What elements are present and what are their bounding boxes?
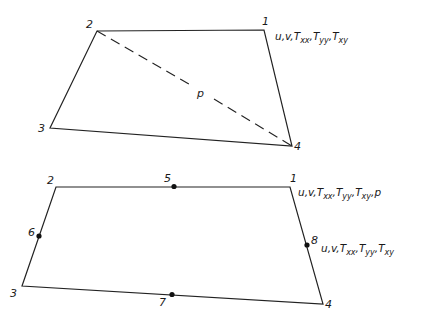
top-node-3-label: 3 bbox=[38, 122, 45, 135]
top-element: 2 1 3 4 p u,v,Txx,Tyy,Txy bbox=[38, 15, 348, 153]
top-node-4-label: 4 bbox=[294, 140, 301, 153]
var-uv: u,v, bbox=[298, 186, 317, 198]
top-diagonal-upper bbox=[97, 31, 189, 84]
bottom-element: 2 1 3 4 5 6 7 8 u,v,Txx,Tyy,Txy,p u,v,Tx… bbox=[10, 172, 394, 311]
var-sub-xx: xx bbox=[299, 36, 310, 45]
bottom-node-7-label: 7 bbox=[159, 296, 166, 309]
var-sub-yy: yy bbox=[341, 192, 352, 201]
top-node-2-label: 2 bbox=[86, 18, 93, 31]
bottom-node-3-label: 3 bbox=[10, 287, 17, 300]
var-sub-xy: xy bbox=[361, 192, 372, 201]
var-uv: u,v, bbox=[275, 30, 294, 42]
bottom-node-5-label: 5 bbox=[164, 172, 171, 185]
var-sub-xx: xx bbox=[322, 192, 333, 201]
top-node-1-variables: u,v,Txx,Tyy,Txy bbox=[275, 30, 348, 45]
bottom-node-4-label: 4 bbox=[325, 298, 332, 311]
bottom-node-8-label: 8 bbox=[311, 234, 318, 247]
bottom-node-8-variables: u,v,Txx,Tyy,Txy bbox=[321, 242, 394, 257]
node-5-dot bbox=[171, 184, 176, 189]
var-sub-xy: xy bbox=[384, 248, 395, 257]
bottom-node-1-label: 1 bbox=[290, 172, 297, 185]
node-6-dot bbox=[36, 233, 41, 238]
node-8-dot bbox=[304, 242, 309, 247]
top-node-1-label: 1 bbox=[262, 15, 269, 28]
bottom-node-1-variables: u,v,Txx,Tyy,Txy,p bbox=[298, 186, 381, 201]
bottom-element-outline bbox=[22, 187, 323, 304]
top-element-outline bbox=[50, 30, 292, 146]
node-7-dot bbox=[169, 292, 174, 297]
var-sub-xy: xy bbox=[338, 36, 349, 45]
pressure-label: p bbox=[196, 87, 204, 100]
var-sub-yy: yy bbox=[364, 248, 375, 257]
var-uv: u,v, bbox=[321, 242, 340, 254]
var-sub-xx: xx bbox=[345, 248, 356, 257]
bottom-node-2-label: 2 bbox=[47, 174, 54, 187]
finite-element-diagram: 2 1 3 4 p u,v,Txx,Tyy,Txy 2 1 3 4 5 6 7 … bbox=[0, 0, 425, 319]
var-p: ,p bbox=[371, 186, 381, 198]
var-sub-yy: yy bbox=[318, 36, 329, 45]
bottom-node-6-label: 6 bbox=[28, 226, 35, 239]
top-diagonal-lower bbox=[214, 99, 292, 146]
